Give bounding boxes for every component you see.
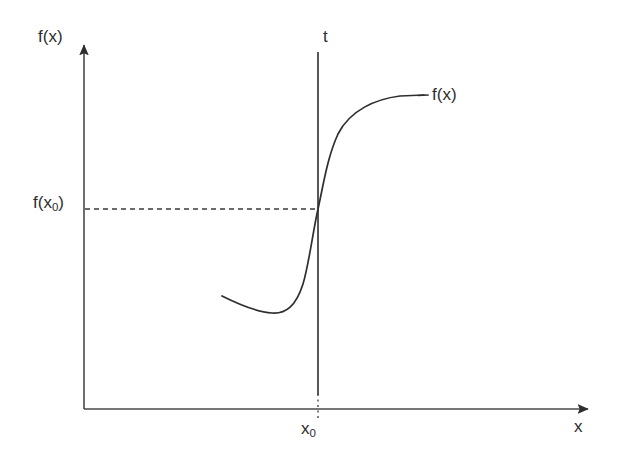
value-guide-label-main: f(x <box>33 193 52 212</box>
x0-tick-label: x0 <box>301 420 316 439</box>
x0-label-main: x <box>301 419 310 438</box>
curve-label: f(x) <box>432 86 457 103</box>
x-axis-label: x <box>574 418 583 435</box>
function-diagram: f(x) x t f(x0) x0 f(x) <box>0 0 620 467</box>
vertical-line-t-label: t <box>323 28 328 45</box>
y-axis-label: f(x) <box>38 28 63 45</box>
curve-label-leader <box>418 95 428 96</box>
value-guide-label-tail: ) <box>58 193 64 212</box>
value-guide-label: f(x0) <box>33 194 64 213</box>
diagram-canvas <box>0 0 620 467</box>
x0-label-subscript: 0 <box>310 427 316 439</box>
function-curve <box>222 95 424 313</box>
